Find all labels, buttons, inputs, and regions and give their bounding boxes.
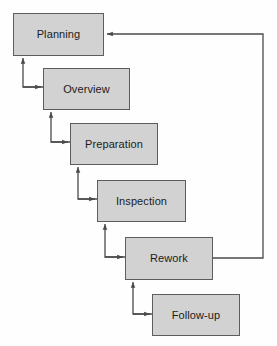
node-inspection[interactable]: Inspection bbox=[97, 180, 186, 222]
connector-overview-preparation bbox=[51, 112, 70, 142]
connector-planning-overview bbox=[23, 58, 43, 87]
node-planning-label: Planning bbox=[37, 29, 81, 40]
node-rework-label: Rework bbox=[150, 253, 188, 264]
connector-rework-followup bbox=[133, 282, 152, 314]
node-followup[interactable]: Follow-up bbox=[152, 294, 240, 336]
node-preparation-label: Preparation bbox=[85, 139, 143, 150]
node-overview-label: Overview bbox=[63, 84, 110, 95]
node-overview[interactable]: Overview bbox=[43, 68, 130, 110]
node-inspection-label: Inspection bbox=[116, 196, 167, 207]
process-flow-diagram: Planning Overview Preparation Inspection… bbox=[0, 0, 277, 346]
node-preparation[interactable]: Preparation bbox=[70, 123, 158, 165]
connector-inspection-rework bbox=[105, 224, 125, 257]
node-rework[interactable]: Rework bbox=[125, 237, 213, 280]
node-followup-label: Follow-up bbox=[172, 310, 221, 321]
connector-preparation-inspection bbox=[78, 167, 97, 199]
node-planning[interactable]: Planning bbox=[13, 13, 104, 56]
